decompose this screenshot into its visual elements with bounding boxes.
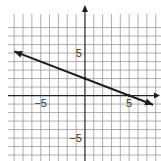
line-arrow-right <box>144 99 153 106</box>
y-axis-arrow <box>82 5 88 12</box>
x-tick-label: −5 <box>34 97 47 109</box>
data-point <box>83 77 86 80</box>
axes <box>8 5 160 161</box>
y-tick-label: −5 <box>69 132 82 144</box>
x-axis-arrow <box>154 93 160 99</box>
data-point <box>128 94 131 97</box>
y-tick-label: 5 <box>76 47 82 59</box>
coordinate-plane: −555−5 <box>0 0 161 161</box>
line-arrow-left <box>14 51 23 58</box>
x-tick-label: 5 <box>126 97 132 109</box>
